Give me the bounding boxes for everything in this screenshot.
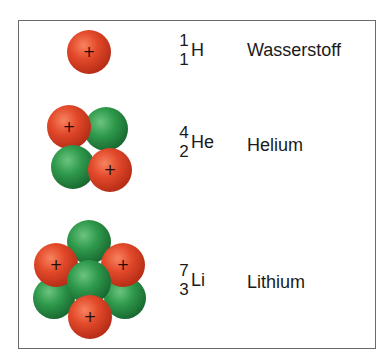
element-symbol: He	[191, 133, 214, 151]
plus-sign-icon: +	[50, 256, 63, 274]
plus-sign-icon: +	[83, 43, 96, 61]
mass-number: 4	[178, 124, 190, 141]
hydrogen-nucleus: +	[67, 30, 111, 74]
mass-number: 7	[178, 262, 190, 279]
element-symbol: H	[191, 41, 204, 59]
plus-sign-icon: +	[104, 161, 117, 179]
element-name-lithium: Lithium	[247, 273, 305, 291]
element-name-hydrogen: Wasserstoff	[247, 41, 341, 59]
element-symbol: Li	[191, 271, 205, 289]
atomic-number: 2	[178, 143, 190, 160]
mass-number: 1	[178, 32, 190, 49]
lithium-nucleus: +++	[33, 220, 146, 339]
atomic-number: 1	[178, 51, 190, 68]
helium-nucleus: ++	[47, 105, 132, 192]
plus-sign-icon: +	[84, 308, 97, 326]
atomic-number: 3	[178, 281, 190, 298]
plus-sign-icon: +	[63, 118, 76, 136]
plus-sign-icon: +	[117, 256, 130, 274]
element-name-helium: Helium	[247, 136, 303, 154]
